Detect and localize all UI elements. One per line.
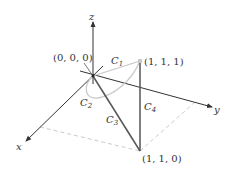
curve-c3 xyxy=(93,76,140,151)
curve-c4-label: C4 xyxy=(144,101,156,114)
diagram-svg: z y x (0, 0, 0) (1, 1, 1) (1, 1, 0) C1 C… xyxy=(0,0,228,174)
point-111-label: (1, 1, 1) xyxy=(144,56,184,67)
curve-c2-label: C2 xyxy=(80,97,93,110)
origin-label: (0, 0, 0) xyxy=(53,52,93,63)
point-110-label: (1, 1, 0) xyxy=(142,153,182,164)
point-111-marker xyxy=(138,59,142,63)
y-axis-label: y xyxy=(213,104,220,115)
curve-c1-label: C1 xyxy=(111,55,123,68)
dashed-line-x-to-p110 xyxy=(40,127,140,151)
diagram-canvas: z y x (0, 0, 0) (1, 1, 1) (1, 1, 0) C1 C… xyxy=(0,0,228,174)
x-axis-label: x xyxy=(16,141,22,152)
origin-leader-line xyxy=(84,63,93,76)
curve-c3-label: C3 xyxy=(106,114,119,127)
origin-point xyxy=(92,75,95,78)
z-axis-label: z xyxy=(88,11,95,22)
